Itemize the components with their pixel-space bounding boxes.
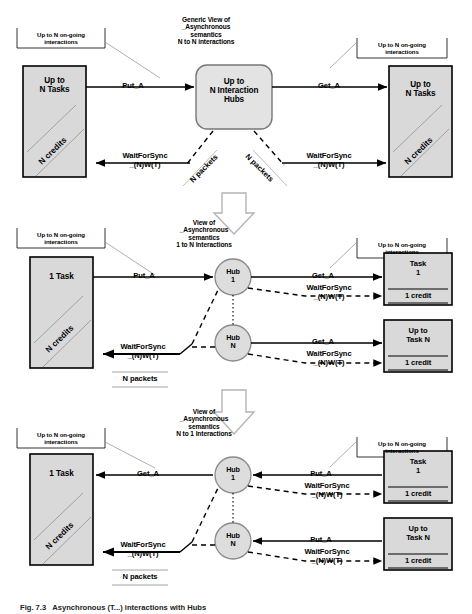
panel3-edge-hubn-wait: WaitForSync _(N)W(T) [288,548,366,565]
panel2-hub-1-label: Hub 1 [215,268,251,284]
panel1-edge-get-a: Get_A [304,82,354,91]
panel2-edge-hub1-get-a: Get_A [298,272,348,281]
panel1-center-box-label: Up to N Interaction Hubs [196,77,272,105]
panel2-edge-hubn-wait: WaitForSync _(N)W(T) [290,350,368,367]
panel3-packets: N packets [112,573,168,582]
panel3-task-1-label: Task 1 [384,458,452,475]
panel3-task-n-credit: 1 credit [384,557,452,566]
panel3-hub-1-label: Hub 1 [215,466,251,482]
panel3-left-box-label: 1 Task [30,469,93,478]
panel3-left-note: Up to N on-going interactions [19,431,103,446]
panel2-packets: N packets [112,375,168,384]
panel2-hub-n-label: Hub N [215,334,251,350]
panel2-task-n-label: Up to Task N [384,327,452,344]
panel1-edge-waitforsync-left: WaitForSync _(N)W(T) [106,152,184,169]
panel3-edge-hubn-put-a: Put_A [296,536,346,545]
panel3-edge-hub1-put-a: Put_A [296,470,346,479]
panel1-left-box-label: Up to N Tasks [23,76,86,94]
panel3-edge-get-a: Get_A [123,470,173,479]
panel3-task-n-label: Up to Task N [384,525,452,542]
panel2-edge-back-wait: WaitForSync _(N)W(T) [104,343,182,360]
panel1-edge-waitforsync-right: WaitForSync _(N)W(T) [290,152,368,169]
panel2-title: View of _Asynchronous semantics 1 to N I… [143,219,265,249]
panel3-edge-hub1-wait: WaitForSync _(N)W(T) [288,482,366,499]
panel3-title: View of _Asynchronous semantics N to 1 I… [143,408,265,438]
panel1-right-box-label: Up to N Tasks [389,80,452,98]
panel1-left-note: Up to N on-going interactions [19,31,103,46]
panel2-right-note: Up to N on-going interactions [359,241,445,256]
panel2-task-n-credit: 1 credit [384,359,452,368]
panel3-edge-back-wait: WaitForSync _(N)W(T) [104,541,182,558]
panel3-hub-n-label: Hub N [215,532,251,548]
panel3-task-1-credit: 1 credit [384,490,452,499]
figure-caption: Fig. 7.3 Asynchronous (T...) interaction… [20,603,206,612]
panel2-edge-put-a: Put_A [119,272,169,281]
panel2-edge-hub1-wait: WaitForSync _(N)W(T) [290,284,368,301]
panel2-left-box-label: 1 Task [30,272,93,281]
panel2-left-note: Up to N on-going interactions [19,231,103,246]
panel2-edge-hubn-get-a: Get_A [298,338,348,347]
panel2-task-1-label: Task 1 [384,260,452,277]
panel1-edge-put-a: Put_A [108,82,158,91]
panel1-right-note: Up to N on-going interactions [359,41,445,56]
panel1-title: Generic View of _Asynchronous semantics … [146,16,266,46]
panel2-task-1-credit: 1 credit [384,292,452,301]
panel3-right-note: Up to N on-going interactions [359,440,445,455]
figure-canvas: Up to N on-going interactions Up to N on… [0,0,472,614]
